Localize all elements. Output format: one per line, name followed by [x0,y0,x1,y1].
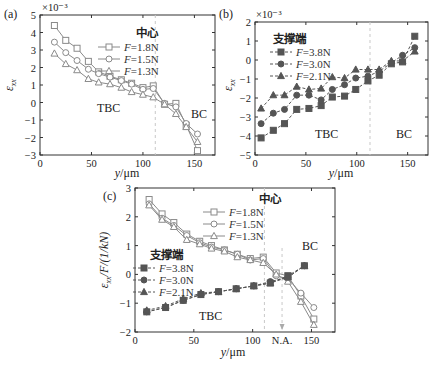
x-tick-label: 0 [252,158,257,169]
legend-title-support: 支撑端 [149,248,184,262]
x-tick-label: 50 [301,158,312,169]
legend-label: F=2.1N [158,286,194,298]
triangle-marker-icon [141,288,148,294]
x-axis-title: y/μm [114,166,140,180]
circle-marker-icon [74,58,80,64]
legend-title: 中心 [136,26,159,40]
circle-marker-icon [270,110,276,116]
square-marker-icon [211,209,217,215]
region-label-bc: BC [302,239,318,253]
y-tick-label: −1 [25,115,36,126]
plot-frame [40,15,215,155]
square-marker-icon [51,23,57,29]
triangle-marker-icon [85,75,92,81]
legend-label: F=1.3N [228,230,264,242]
triangle-marker-icon [74,67,81,73]
triangle-marker-icon [352,66,359,72]
y-tick-label: 2 [31,63,36,74]
panel-label: (c) [103,189,116,203]
circle-marker-icon [96,71,102,77]
x-tick-label: 0 [37,158,42,169]
y-tick-label: 0 [126,269,131,280]
y-multiplier: ×10⁻³ [256,9,282,20]
legend-title: 支撑端 [272,32,307,46]
region-label-tbc: TBC [199,309,222,323]
y-axis-title: εxx/F/(1/kN) [97,232,113,289]
neutral-axis-arrow-icon [280,324,285,330]
circle-marker-icon [353,75,359,81]
figure-canvas: 050100150−3−2−1012345(a)×10⁻³y/μmεxxTBCB… [0,0,436,366]
y-multiplier: ×10⁻³ [42,2,68,13]
y-tick-label: 0 [246,55,251,66]
x-tick-label: 150 [187,158,203,169]
circle-marker-icon [211,221,217,227]
circle-marker-icon [85,66,91,72]
y-tick-label: −3 [240,112,251,123]
circle-marker-icon [150,86,156,92]
legend-label: F=2.1N [295,70,331,82]
circle-marker-icon [365,73,371,79]
square-marker-icon [294,106,300,112]
x-tick-label: 50 [86,158,97,169]
legend-label: F=1.5N [228,218,264,230]
region-label-tbc: TBC [315,127,338,141]
y-tick-label: 0 [31,98,36,109]
square-marker-icon [282,121,288,127]
y-tick-label: −5 [240,150,251,161]
circle-marker-icon [173,104,179,110]
x-tick-label: 50 [189,335,200,346]
panel-label: (a) [4,7,17,21]
square-marker-icon [329,94,335,100]
panel-label: (b) [219,7,233,21]
square-marker-icon [412,33,418,39]
square-marker-icon [141,265,147,271]
square-marker-icon [195,148,201,154]
region-label-tbc: TBC [97,101,120,115]
y-tick-label: 4 [31,28,37,39]
square-marker-icon [270,127,276,133]
square-marker-icon [258,135,264,141]
square-marker-icon [306,105,312,111]
triangle-marker-icon [293,83,300,89]
circle-marker-icon [298,290,304,296]
x-tick-label: 150 [304,335,320,346]
y-axis-title: εxx [2,79,18,91]
triangle-marker-icon [278,72,285,78]
triangle-marker-icon [341,74,348,80]
legend-label: F=1.3N [123,65,159,77]
circle-marker-icon [118,78,124,84]
circle-marker-icon [282,106,288,112]
region-label-bc: BC [191,107,207,121]
neutral-axis-label: N.A. [272,335,292,346]
legend-title-center: 中心 [259,192,282,206]
y-tick-label: 3 [126,183,131,194]
legend-label: F=3.8N [295,46,331,58]
y-tick-label: 5 [31,10,36,21]
y-tick-label: −2 [120,327,131,338]
square-marker-icon [353,86,359,92]
x-tick-label: 150 [400,158,416,169]
circle-marker-icon [258,121,264,127]
y-tick-label: −2 [25,133,36,144]
circle-marker-icon [306,92,312,98]
y-tick-label: 1 [126,241,131,252]
x-axis-title: y/μm [220,345,246,359]
square-marker-icon [318,103,324,109]
chart-panel-b: 050100150−5−4−3−2−1012(b)×10⁻³y/μmεxxTBC… [219,7,428,180]
y-tick-label: −1 [240,74,251,85]
y-tick-label: −2 [240,93,251,104]
circle-marker-icon [329,86,335,92]
circle-marker-icon [51,39,57,45]
y-axis-title: εxx [221,79,237,91]
legend-label: F=1.8N [228,206,264,218]
square-marker-icon [74,45,80,51]
y-tick-label: −4 [240,131,252,142]
circle-marker-icon [311,305,317,311]
legend-label: F=1.5N [123,53,159,65]
circle-marker-icon [278,61,284,67]
circle-marker-icon [294,92,300,98]
y-tick-label: 1 [31,80,36,91]
square-marker-icon [85,58,91,64]
y-tick-label: 2 [246,17,251,28]
square-marker-icon [278,49,284,55]
